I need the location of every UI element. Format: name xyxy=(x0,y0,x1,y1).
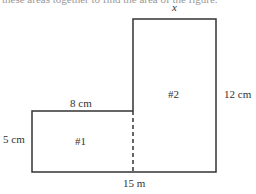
total-width-label: 15 m xyxy=(123,177,145,189)
rect1-height-label: 5 cm xyxy=(3,133,25,145)
rect2-label: #2 xyxy=(168,88,179,100)
rect2-height-label: 12 cm xyxy=(224,88,251,100)
rect1-label: #1 xyxy=(75,135,86,147)
figure-outline xyxy=(32,19,216,172)
rect1-width-label: 8 cm xyxy=(70,97,92,109)
l-shape-figure xyxy=(0,0,256,194)
top-width-label: x xyxy=(172,1,177,13)
